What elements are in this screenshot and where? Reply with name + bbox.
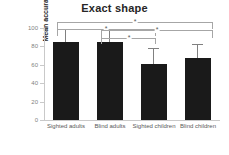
y-tick-label-60: 60 bbox=[31, 62, 38, 68]
significance-annotations: * * * * bbox=[0, 0, 229, 60]
significance-star-1: * bbox=[133, 19, 138, 25]
significance-star-3: * bbox=[155, 27, 160, 33]
x-axis-line bbox=[44, 120, 220, 121]
x-axis-labels: Sighted adults Blind adults Sighted chil… bbox=[44, 123, 220, 137]
y-tick-label-0: 0 bbox=[35, 117, 38, 123]
chart-figure: Exact shape Mean accuracy (%) 0 20 40 60… bbox=[0, 0, 229, 155]
bar-blind-children[interactable] bbox=[185, 58, 211, 120]
y-tick-label-40: 40 bbox=[31, 80, 38, 86]
y-tick-0 bbox=[40, 120, 44, 121]
y-tick-label-20: 20 bbox=[31, 99, 38, 105]
x-label-blind-children: Blind children bbox=[171, 123, 225, 129]
bar-sighted-children[interactable] bbox=[141, 64, 167, 120]
significance-star-4: * bbox=[127, 35, 132, 41]
